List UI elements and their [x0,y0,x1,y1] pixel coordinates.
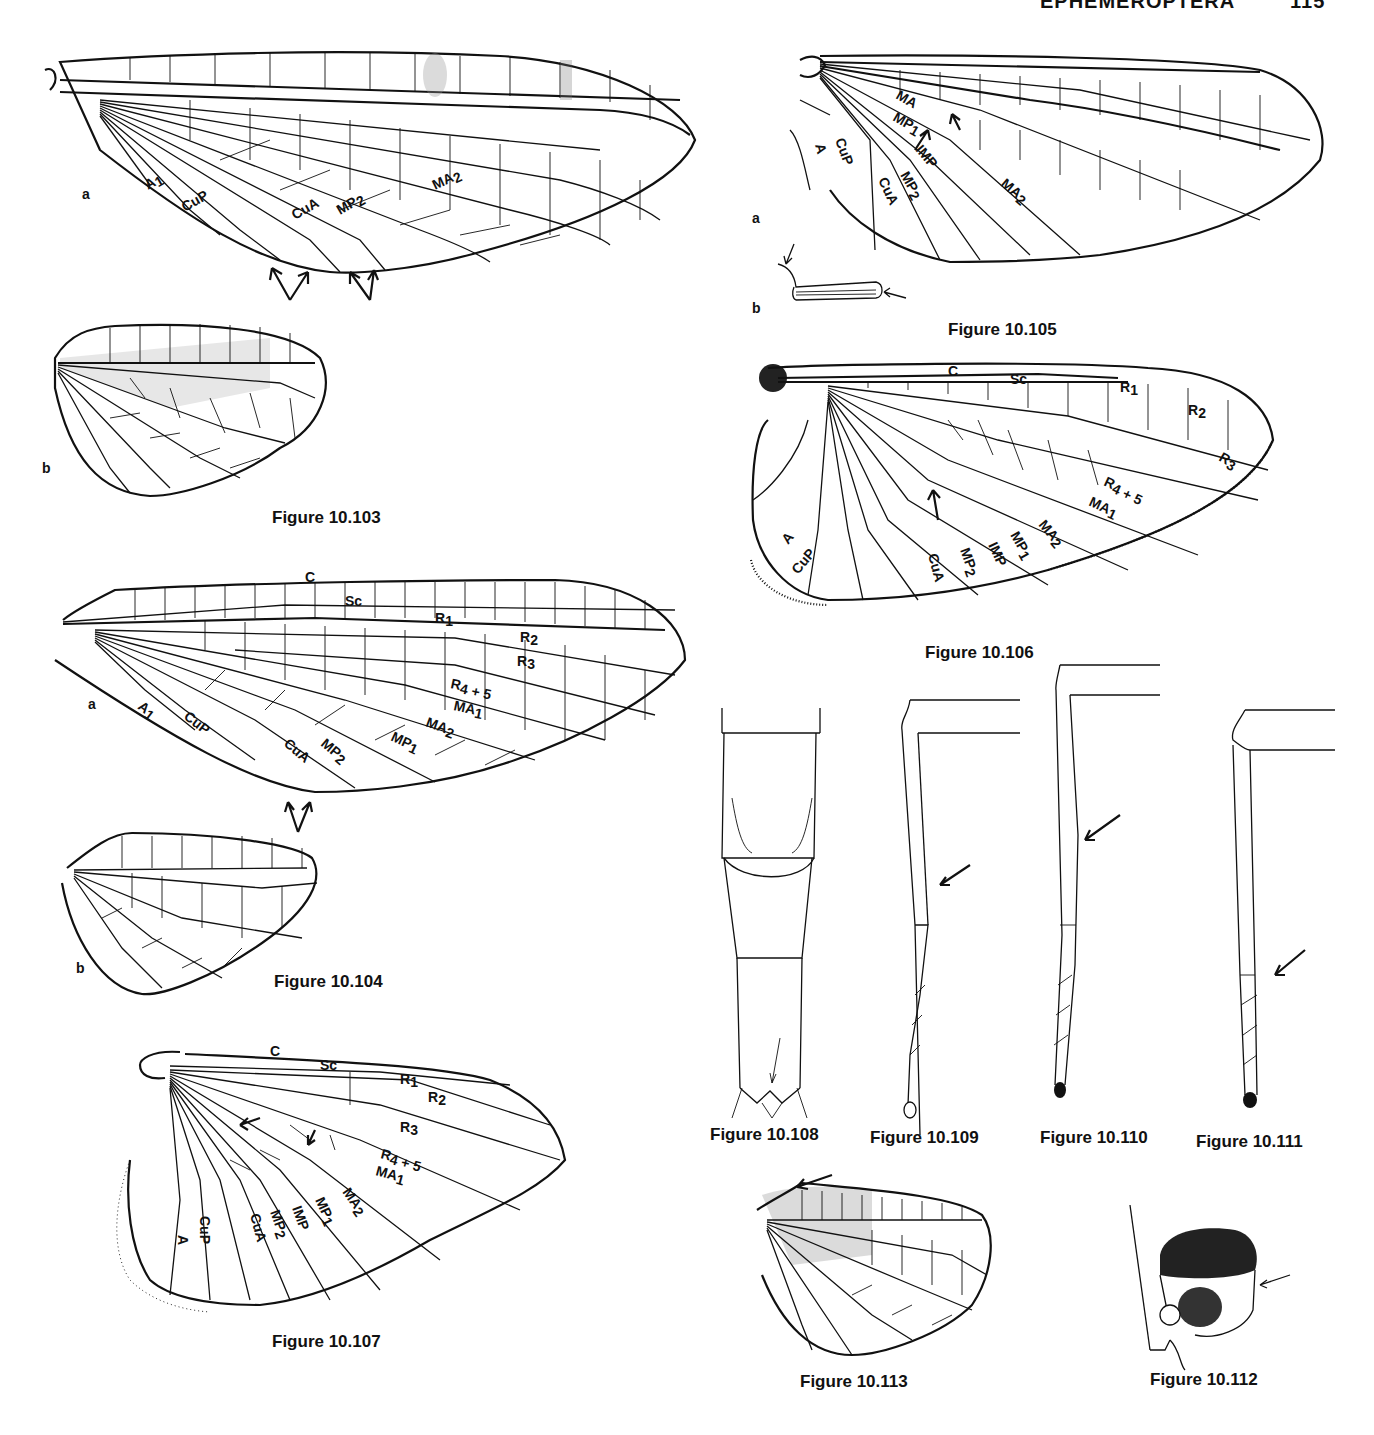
svg-text:Sc: Sc [345,593,362,609]
figure-10-108-abdomen [712,708,832,1118]
svg-text:R1: R1 [435,610,453,629]
figure-10-105-part-a: a [752,210,760,226]
svg-text:A1: A1 [133,698,159,724]
figure-10-104a-forewing: C Sc R1 R2 R3 R4 + 5 MA1 MA2 MP1 MP2 CuA… [55,560,695,800]
svg-text:MA: MA [894,87,921,112]
figure-caption-10-111: Figure 10.111 [1196,1132,1303,1152]
figure-10-103b-hindwing [50,318,330,498]
svg-text:C: C [305,569,315,585]
figure-10-105-part-b: b [752,300,761,316]
svg-text:IMP: IMP [289,1204,313,1233]
figure-caption-10-113: Figure 10.113 [800,1372,908,1392]
svg-text:MA2: MA2 [423,714,457,742]
svg-text:CuP: CuP [197,1216,213,1244]
figure-10-104-part-a: a [88,696,96,712]
figure-10-104-part-b: b [76,960,85,976]
svg-text:CuA: CuA [281,735,313,766]
figure-caption-10-110: Figure 10.110 [1040,1128,1148,1148]
figure-10-112-head [1125,1200,1305,1370]
svg-text:MA2: MA2 [430,166,465,196]
figure-caption-10-106: Figure 10.106 [925,643,1034,663]
svg-text:MA2: MA2 [996,175,1031,209]
figure-10-103-part-a: a [82,186,90,202]
svg-text:A: A [812,142,830,156]
svg-text:MA2: MA2 [337,1185,370,1220]
svg-text:MA2: MA2 [1033,517,1067,552]
figure-10-103a-forewing: A1 CuP CuA MP2 MA2 [40,40,700,300]
svg-text:A: A [778,529,797,547]
figure-10-110-leg [1010,665,1170,1105]
figure-caption-10-105: Figure 10.105 [948,320,1057,340]
svg-text:CuA: CuA [875,175,902,208]
running-head: EPHEMEROPTERA [1040,0,1235,13]
svg-text:R2: R2 [428,1089,446,1108]
svg-text:MA1: MA1 [452,697,485,722]
svg-text:MP2: MP2 [954,546,982,580]
figure-caption-10-107: Figure 10.107 [272,1332,381,1352]
svg-text:CuP: CuP [181,708,213,738]
svg-text:CuP: CuP [832,136,857,168]
figure-caption-10-108: Figure 10.108 [710,1125,819,1145]
figure-10-106-wing: C Sc R1 R2 R3 R4 + 5 MA1 MA2 MP1 IMP MP2… [748,360,1348,630]
figure-10-103-part-b: b [42,460,51,476]
svg-text:R1: R1 [400,1071,418,1090]
svg-text:R1: R1 [1120,379,1138,398]
svg-text:Sc: Sc [1010,371,1027,387]
page-number: 115 [1290,0,1325,13]
svg-text:R3: R3 [400,1119,418,1138]
svg-text:CuA: CuA [925,552,948,584]
figure-caption-10-104: Figure 10.104 [274,972,383,992]
figure-10-105b-detail [766,242,926,302]
figure-10-109-leg [870,695,1030,1115]
svg-text:Sc: Sc [320,1057,337,1073]
figure-caption-10-103: Figure 10.103 [272,508,381,528]
svg-text:R2: R2 [1188,402,1206,421]
svg-text:CuP: CuP [179,187,211,215]
svg-text:C: C [948,363,958,379]
svg-text:A: A [175,1235,191,1245]
svg-text:MP1: MP1 [387,728,421,757]
figure-caption-10-109: Figure 10.109 [870,1128,979,1148]
figure-10-111-leg [1205,705,1365,1125]
svg-text:R3: R3 [1215,449,1240,475]
svg-text:MP2: MP2 [334,189,369,220]
svg-text:R3: R3 [517,653,535,672]
svg-text:C: C [270,1043,280,1059]
svg-text:MP1: MP1 [889,109,924,140]
figure-10-113-wing [752,1175,1002,1370]
svg-text:R2: R2 [520,629,538,648]
figure-10-105a-forewing: MA MP1 IMP MP2 CuA CuP A MA2 [780,50,1340,270]
svg-text:MP2: MP2 [316,735,350,768]
figure-caption-10-112: Figure 10.112 [1150,1370,1258,1390]
svg-text:IMP: IMP [985,540,1010,569]
svg-text:CuA: CuA [247,1212,270,1244]
figure-10-107-wing: C Sc R1 R2 R3 R4 + 5 MA1 MA2 MP1 IMP MP2… [110,1050,570,1320]
